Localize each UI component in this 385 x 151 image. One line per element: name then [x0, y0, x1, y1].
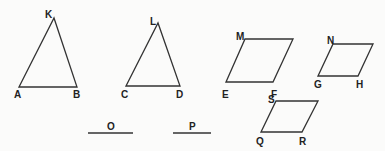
triangle-akb: KAB: [14, 9, 80, 100]
geometry-diagram: KABLCDMEFNGHSQR OP: [0, 0, 385, 151]
parallelogram-outline: [261, 101, 318, 132]
vertex-label-r: R: [299, 136, 307, 147]
segment-label-o: O: [107, 121, 115, 132]
segment-o: O: [88, 121, 133, 133]
vertex-label-l: L: [150, 16, 156, 27]
segment-p: P: [173, 121, 211, 133]
vertex-label-c: C: [121, 89, 128, 100]
vertex-label-h: H: [356, 79, 363, 90]
vertex-label-e: E: [222, 89, 229, 100]
segment-label-p: P: [189, 121, 196, 132]
vertex-label-k: K: [45, 9, 53, 20]
vertex-label-a: A: [14, 89, 21, 100]
vertex-label-m: M: [236, 31, 244, 42]
vertex-label-n: N: [327, 35, 334, 46]
vertex-label-g: G: [314, 79, 322, 90]
parallelogram-outline: [318, 44, 373, 76]
segments-layer: OP: [88, 121, 211, 133]
vertex-label-q: Q: [256, 136, 264, 147]
parallelogram-ngh: NGH: [314, 35, 373, 90]
vertex-label-b: B: [73, 89, 80, 100]
vertex-label-s: S: [268, 94, 275, 105]
parallelogram-outline: [226, 39, 293, 82]
parallelogram-sqr: SQR: [256, 94, 318, 147]
triangle-cld: LCD: [121, 16, 183, 100]
triangle-outline: [19, 18, 77, 87]
vertex-label-d: D: [176, 89, 183, 100]
parallelogram-mef: MEF: [222, 31, 293, 100]
triangle-outline: [126, 23, 180, 86]
